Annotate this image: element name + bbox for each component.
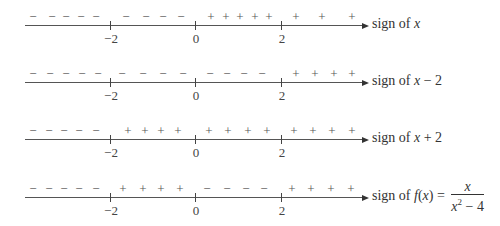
- number-line: [25, 139, 362, 140]
- plus-sign: +: [292, 10, 299, 23]
- plus-sign: +: [141, 124, 148, 137]
- plus-sign: +: [328, 124, 335, 137]
- arrow-right-icon: [362, 195, 369, 201]
- plus-sign: +: [292, 67, 299, 80]
- plus-sign: +: [157, 182, 164, 195]
- plus-sign: +: [348, 10, 355, 23]
- tick-mark: [195, 193, 196, 202]
- tick-label: 0: [193, 88, 200, 104]
- minus-sign: −: [77, 10, 84, 23]
- plus-sign: +: [348, 124, 355, 137]
- minus-sign: −: [48, 10, 55, 23]
- minus-sign: −: [206, 67, 213, 80]
- tick-label: −2: [104, 31, 118, 47]
- plus-sign: +: [290, 124, 297, 137]
- minus-sign: −: [29, 124, 36, 137]
- plus-sign: +: [347, 182, 354, 195]
- tick-mark: [110, 21, 111, 30]
- tick-label: 0: [193, 31, 200, 47]
- plus-sign: +: [224, 124, 231, 137]
- plus-sign: +: [119, 182, 126, 195]
- tick-label: 2: [279, 145, 286, 161]
- minus-sign: −: [203, 182, 210, 195]
- tick-mark: [281, 193, 282, 202]
- plus-sign: +: [174, 124, 181, 137]
- minus-sign: −: [223, 67, 230, 80]
- arrow-right-icon: [362, 137, 369, 143]
- tick-mark: [110, 78, 111, 87]
- minus-sign: −: [118, 67, 125, 80]
- tick-mark: [281, 78, 282, 87]
- minus-sign: −: [179, 67, 186, 80]
- fraction: xx2 − 4: [451, 180, 484, 214]
- plus-sign: +: [236, 10, 243, 23]
- number-line: [25, 197, 362, 198]
- plus-sign: +: [124, 124, 131, 137]
- minus-sign: −: [45, 124, 52, 137]
- minus-sign: −: [78, 67, 85, 80]
- number-line: [25, 82, 362, 83]
- minus-sign: −: [258, 67, 265, 80]
- minus-sign: −: [92, 10, 99, 23]
- tick-label: 2: [279, 88, 286, 104]
- minus-sign: −: [177, 10, 184, 23]
- tick-mark: [195, 135, 196, 144]
- plus-sign: +: [251, 10, 258, 23]
- plus-sign: +: [265, 10, 272, 23]
- minus-sign: −: [60, 124, 67, 137]
- minus-sign: −: [223, 182, 230, 195]
- plus-sign: +: [244, 124, 251, 137]
- minus-sign: −: [45, 182, 52, 195]
- minus-sign: −: [142, 10, 149, 23]
- tick-label: 2: [279, 203, 286, 219]
- tick-mark: [195, 78, 196, 87]
- plus-sign: +: [288, 182, 295, 195]
- tick-mark: [110, 193, 111, 202]
- minus-sign: −: [122, 10, 129, 23]
- minus-sign: −: [260, 182, 267, 195]
- tick-label: −2: [104, 88, 118, 104]
- minus-sign: −: [92, 182, 99, 195]
- number-line: [25, 25, 362, 26]
- tick-mark: [195, 21, 196, 30]
- plus-sign: +: [139, 182, 146, 195]
- minus-sign: −: [159, 10, 166, 23]
- arrow-right-icon: [362, 23, 369, 29]
- row-label: sign of x − 2: [372, 73, 442, 89]
- plus-sign: +: [157, 124, 164, 137]
- minus-sign: −: [242, 182, 249, 195]
- arrow-right-icon: [362, 80, 369, 86]
- row-label: sign of x + 2: [372, 130, 442, 146]
- minus-sign: −: [94, 67, 101, 80]
- row-label: sign of f(x) = xx2 − 4: [372, 180, 484, 214]
- minus-sign: −: [29, 182, 36, 195]
- plus-sign: +: [348, 67, 355, 80]
- minus-sign: −: [75, 124, 82, 137]
- plus-sign: +: [205, 124, 212, 137]
- plus-sign: +: [207, 10, 214, 23]
- plus-sign: +: [263, 124, 270, 137]
- tick-label: −2: [104, 145, 118, 161]
- plus-sign: +: [176, 182, 183, 195]
- minus-sign: −: [29, 67, 36, 80]
- tick-label: 2: [279, 31, 286, 47]
- plus-sign: +: [311, 67, 318, 80]
- tick-mark: [281, 21, 282, 30]
- minus-sign: −: [46, 67, 53, 80]
- row-label: sign of x: [372, 16, 420, 32]
- plus-sign: +: [307, 182, 314, 195]
- minus-sign: −: [60, 182, 67, 195]
- minus-sign: −: [62, 10, 69, 23]
- minus-sign: −: [75, 182, 82, 195]
- plus-sign: +: [318, 10, 325, 23]
- tick-label: −2: [104, 203, 118, 219]
- plus-sign: +: [309, 124, 316, 137]
- tick-mark: [281, 135, 282, 144]
- plus-sign: +: [327, 182, 334, 195]
- minus-sign: −: [62, 67, 69, 80]
- minus-sign: −: [29, 10, 36, 23]
- tick-mark: [110, 135, 111, 144]
- minus-sign: −: [159, 67, 166, 80]
- plus-sign: +: [330, 67, 337, 80]
- minus-sign: −: [139, 67, 146, 80]
